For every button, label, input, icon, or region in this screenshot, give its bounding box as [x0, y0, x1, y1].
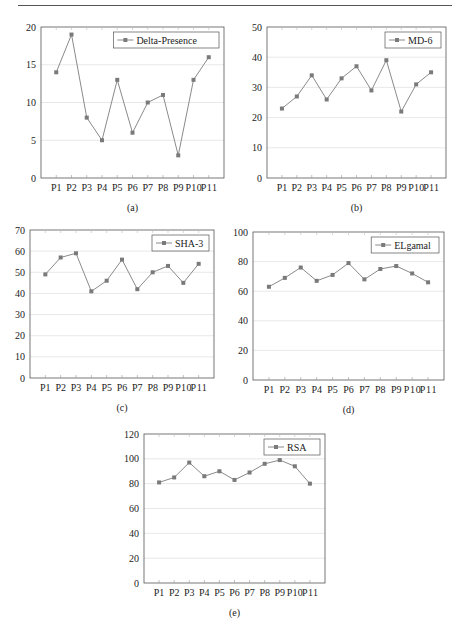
x-tick-label: P2	[169, 587, 180, 598]
x-tick-label: P10	[408, 182, 424, 193]
series-line	[269, 263, 428, 287]
data-point-marker	[192, 78, 196, 82]
x-tick-label: P3	[184, 587, 195, 598]
x-tick-label: P10	[175, 382, 191, 393]
y-tick-label: 60	[238, 286, 248, 297]
data-point-marker	[233, 478, 237, 482]
x-tick-label: P6	[127, 182, 138, 193]
y-tick-label: 0	[31, 173, 36, 184]
data-point-marker	[187, 461, 191, 465]
y-tick-label: 0	[134, 578, 139, 589]
x-tick-label: P7	[366, 182, 377, 193]
x-tick-label: P10	[287, 587, 303, 598]
x-tick-label: P4	[311, 384, 322, 395]
data-point-marker	[325, 97, 329, 101]
figure-caption: (c)	[116, 402, 127, 414]
legend: Delta-Presence	[113, 32, 219, 48]
y-tick-label: 70	[15, 225, 25, 236]
figure-caption: (a)	[127, 202, 138, 214]
data-point-marker	[43, 272, 47, 276]
x-tick-label: P7	[132, 382, 143, 393]
data-point-marker	[347, 261, 351, 265]
data-point-marker	[414, 82, 418, 86]
y-tick-label: 40	[129, 528, 139, 539]
data-point-marker	[172, 475, 176, 479]
x-tick-label: P8	[158, 182, 169, 193]
y-tick-label: 80	[238, 256, 248, 267]
legend-label: SHA-3	[175, 238, 203, 249]
data-point-marker	[59, 255, 63, 259]
data-point-marker	[131, 131, 135, 135]
data-point-marker	[161, 93, 165, 97]
figure-caption: (b)	[351, 202, 363, 214]
x-tick-label: P11	[201, 182, 217, 193]
x-tick-label: P3	[81, 182, 92, 193]
data-point-marker	[151, 270, 155, 274]
figure-caption: (e)	[229, 607, 240, 619]
x-tick-label: P11	[420, 384, 437, 395]
y-tick-label: 60	[15, 246, 25, 257]
y-tick-label: 0	[243, 375, 248, 386]
x-tick-label: P7	[359, 384, 370, 395]
data-point-marker	[299, 266, 303, 270]
x-tick-label: P11	[191, 382, 207, 393]
y-tick-label: 20	[129, 553, 139, 564]
y-tick-label: 50	[252, 22, 262, 33]
chart-a-delta-presence: 05101520P1P2P3P4P5P6P7P8P9P10P11Delta-Pr…	[13, 21, 228, 218]
x-tick-label: P10	[404, 384, 421, 395]
y-tick-label: 20	[15, 330, 25, 341]
y-tick-label: 20	[238, 345, 248, 356]
legend: RSA	[264, 439, 320, 455]
data-point-marker	[315, 279, 319, 283]
x-tick-label: P8	[147, 382, 158, 393]
data-point-marker	[410, 271, 414, 275]
y-tick-label: 10	[252, 142, 262, 153]
y-tick-label: 100	[124, 453, 139, 464]
data-point-marker	[378, 267, 382, 271]
x-tick-label: P2	[55, 382, 66, 393]
legend-label: ELgamal	[394, 240, 431, 251]
chart-c-sha3: 010203040506070P1P2P3P4P5P6P7P8P9P10P11S…	[2, 224, 218, 418]
data-point-marker	[115, 78, 119, 82]
x-tick-label: P1	[51, 182, 62, 193]
data-point-marker	[135, 287, 139, 291]
x-tick-label: P3	[71, 382, 82, 393]
x-tick-label: P4	[97, 182, 108, 193]
data-point-marker	[278, 458, 282, 462]
y-tick-label: 80	[129, 478, 139, 489]
data-point-marker	[295, 94, 299, 98]
data-point-marker	[369, 88, 373, 92]
x-tick-label: P9	[274, 587, 285, 598]
data-point-marker	[100, 138, 104, 142]
data-point-marker	[308, 482, 312, 486]
x-tick-label: P5	[112, 182, 123, 193]
data-point-marker	[399, 110, 403, 114]
data-point-marker	[310, 73, 314, 77]
y-tick-label: 10	[15, 351, 25, 362]
x-tick-label: P6	[229, 587, 240, 598]
data-point-marker	[384, 58, 388, 62]
data-point-marker	[157, 480, 161, 484]
x-tick-label: P5	[336, 182, 347, 193]
y-tick-label: 30	[15, 309, 25, 320]
x-tick-label: P2	[66, 182, 77, 193]
x-tick-label: P9	[396, 182, 407, 193]
data-point-marker	[181, 281, 185, 285]
y-tick-label: 120	[124, 429, 139, 440]
data-point-marker	[202, 474, 206, 478]
data-point-marker	[340, 76, 344, 80]
data-point-marker	[293, 464, 297, 468]
plot-frame	[30, 230, 214, 378]
x-tick-label: P6	[117, 382, 128, 393]
chart-d-elgamal: 020406080100P1P2P3P4P5P6P7P8P9P10P11ELga…	[225, 226, 448, 420]
data-point-marker	[280, 107, 284, 111]
x-tick-label: P9	[391, 384, 402, 395]
figure-caption: (d)	[343, 404, 355, 416]
data-point-marker	[166, 264, 170, 268]
plot-frame	[253, 232, 444, 380]
legend: MD-6	[385, 32, 441, 48]
data-point-marker	[54, 70, 58, 74]
data-point-marker	[85, 116, 89, 120]
data-point-marker	[248, 470, 252, 474]
y-tick-label: 100	[233, 227, 248, 238]
